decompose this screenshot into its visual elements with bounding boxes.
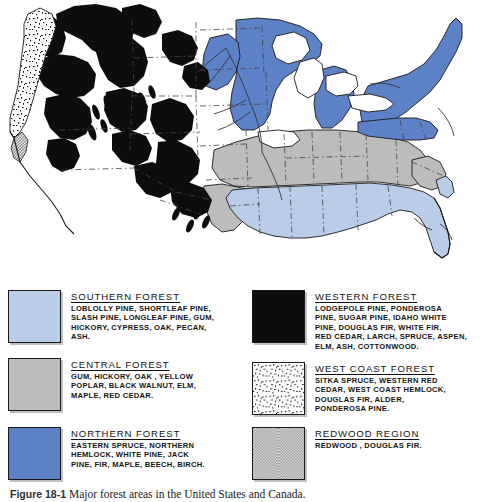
legend-species-line: LOBLOLLY PINE, SHORTLEAF PINE, [71, 304, 214, 313]
figure-number: Figure 18-1 [10, 488, 66, 500]
legend-species-northern-forest: EASTERN SPRUCE, NORTHERN HEMLOCK, WHITE … [71, 441, 205, 469]
legend-species-line: ELM, ASH, COTTONWOOD. [315, 342, 467, 351]
legend-text-central-forest: CENTRAL FOREST GUM, HICKORY, OAK , YELLO… [71, 358, 196, 400]
legend-species-line: PINE, FIR, MAPLE, BEECH, BIRCH. [71, 460, 205, 469]
legend-species-line: REDWOOD , DOUGLAS FIR. [315, 441, 422, 450]
legend-swatch-southern-forest [8, 290, 61, 343]
legend-species-line: DOUGLAS FIR, ALDER, [315, 395, 446, 404]
halftone-pattern-icon [253, 428, 304, 479]
legend-species-line: SITKA SPRUCE, WESTERN RED [315, 376, 446, 385]
stipple-pattern-icon [253, 363, 304, 414]
legend-swatch-redwood-region [252, 427, 305, 480]
forest-map [0, 0, 492, 285]
legend-species-line: ASH. [71, 332, 214, 341]
legend-species-line: CEDAR, WEST COAST HEMLOCK, [315, 385, 446, 394]
legend-species-redwood-region: REDWOOD , DOUGLAS FIR. [315, 441, 422, 450]
map-region-western-forest [32, 4, 212, 234]
map-svg [0, 0, 492, 285]
legend-swatch-central-forest [8, 358, 61, 411]
legend-title-central-forest: CENTRAL FOREST [71, 359, 196, 371]
legend-swatch-west-coast-forest [252, 362, 305, 415]
legend-species-southern-forest: LOBLOLLY PINE, SHORTLEAF PINE, SLASH PIN… [71, 304, 214, 342]
legend-item-west-coast-forest[interactable]: WEST COAST FOREST SITKA SPRUCE, WESTERN … [252, 362, 490, 415]
legend-title-west-coast-forest: WEST COAST FOREST [315, 363, 446, 375]
legend-species-line: POPLAR, BLACK WALNUT, ELM, [71, 381, 196, 390]
legend-title-redwood-region: REDWOOD REGION [315, 428, 422, 440]
legend-text-west-coast-forest: WEST COAST FOREST SITKA SPRUCE, WESTERN … [315, 362, 446, 414]
legend-species-line: PONDEROSA PINE. [315, 404, 446, 413]
legend-species-line: MAPLE, RED CEDAR. [71, 391, 196, 400]
legend-item-northern-forest[interactable]: NORTHERN FOREST EASTERN SPRUCE, NORTHERN… [8, 427, 246, 480]
legend-species-western-forest: LODGEPOLE PINE, PONDEROSA PINE, SUGAR PI… [315, 304, 467, 351]
legend-text-redwood-region: REDWOOD REGION REDWOOD , DOUGLAS FIR. [315, 427, 422, 450]
legend-species-line: HICKORY, CYPRESS, OAK, PECAN, [71, 323, 214, 332]
legend-swatch-western-forest [252, 290, 305, 343]
legend-species-line: PINE, DOUGLAS FIR, WHITE FIR, [315, 323, 467, 332]
legend-title-southern-forest: SOUTHERN FOREST [71, 291, 214, 303]
legend-species-line: EASTERN SPRUCE, NORTHERN [71, 441, 205, 450]
legend-item-central-forest[interactable]: CENTRAL FOREST GUM, HICKORY, OAK , YELLO… [8, 358, 246, 411]
legend-title-western-forest: WESTERN FOREST [315, 291, 467, 303]
legend-text-western-forest: WESTERN FOREST LODGEPOLE PINE, PONDEROSA… [315, 290, 467, 351]
legend-species-line: HEMLOCK, WHITE PINE, JACK [71, 450, 205, 459]
legend-item-redwood-region[interactable]: REDWOOD REGION REDWOOD , DOUGLAS FIR. [252, 427, 490, 480]
legend-column-right: WESTERN FOREST LODGEPOLE PINE, PONDEROSA… [246, 286, 492, 486]
figure-caption-text: Major forest areas in the United States … [69, 488, 306, 500]
legend-text-northern-forest: NORTHERN FOREST EASTERN SPRUCE, NORTHERN… [71, 427, 205, 469]
legend-species-line: PINE, SUGAR PINE, IDAHO WHITE [315, 313, 467, 322]
legend-species-central-forest: GUM, HICKORY, OAK , YELLOW POPLAR, BLACK… [71, 372, 196, 400]
legend-item-southern-forest[interactable]: SOUTHERN FOREST LOBLOLLY PINE, SHORTLEAF… [8, 290, 246, 343]
figure-caption: Figure 18-1 Major forest areas in the Un… [10, 487, 480, 501]
legend-swatch-northern-forest [8, 427, 61, 480]
legend-column-left: SOUTHERN FOREST LOBLOLLY PINE, SHORTLEAF… [0, 286, 246, 486]
legend-item-western-forest[interactable]: WESTERN FOREST LODGEPOLE PINE, PONDEROSA… [252, 290, 490, 351]
legend-species-line: GUM, HICKORY, OAK , YELLOW [71, 372, 196, 381]
legend-species-line: RED CEDAR, LARCH, SPRUCE, ASPEN, [315, 332, 467, 341]
legend-species-line: SLASH PINE, LONGLEAF PINE, GUM, [71, 313, 214, 322]
legend-species-west-coast-forest: SITKA SPRUCE, WESTERN RED CEDAR, WEST CO… [315, 376, 446, 414]
legend-species-line: LODGEPOLE PINE, PONDEROSA [315, 304, 467, 313]
map-legend: SOUTHERN FOREST LOBLOLLY PINE, SHORTLEAF… [0, 286, 492, 486]
legend-text-southern-forest: SOUTHERN FOREST LOBLOLLY PINE, SHORTLEAF… [71, 290, 214, 342]
legend-title-northern-forest: NORTHERN FOREST [71, 428, 205, 440]
